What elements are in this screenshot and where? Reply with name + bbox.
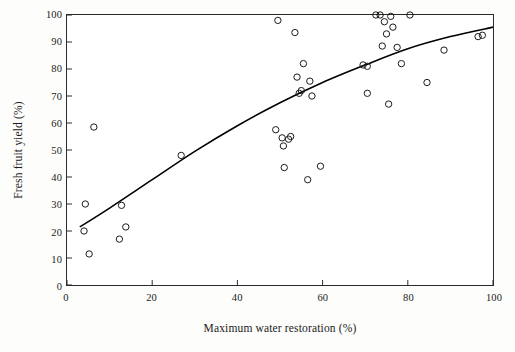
axis-tick-marks [67,15,493,285]
data-point [305,177,311,183]
data-point [281,164,287,170]
data-point [475,33,481,39]
y-axis-label-text: Fresh fruit yield (%) [12,101,24,198]
y-axis-label: Fresh fruit yield (%) [8,14,28,286]
data-point [307,78,313,84]
data-points-group [81,12,486,257]
y-tick-label: 0 [36,281,62,292]
data-point [381,19,387,25]
y-tick-label: 80 [36,63,62,74]
data-point [388,13,394,19]
data-point [385,101,391,107]
y-tick-label: 20 [36,226,62,237]
data-point [317,163,323,169]
data-point [364,90,370,96]
data-point [300,60,306,66]
data-point [91,124,97,130]
x-tick-label: 20 [132,292,172,303]
y-tick-label: 60 [36,117,62,128]
y-tick-label: 40 [36,172,62,183]
x-tick-label: 40 [217,292,257,303]
data-point [275,17,281,23]
y-tick-label: 10 [36,253,62,264]
y-tick-label: 30 [36,199,62,210]
data-point [86,251,92,257]
data-point [309,93,315,99]
data-point [273,127,279,133]
data-point [441,47,447,53]
x-axis-label: Maximum water restoration (%) [66,322,494,334]
data-point [394,44,400,50]
y-tick-label: 100 [36,9,62,20]
data-point [81,228,87,234]
y-tick-label: 50 [36,145,62,156]
x-tick-label: 80 [388,292,428,303]
y-tick-label: 90 [36,36,62,47]
data-point [379,43,385,49]
data-point [383,31,389,37]
data-point [279,135,285,141]
data-point [292,29,298,35]
data-point [407,12,413,18]
data-point [294,74,300,80]
data-point [178,152,184,158]
data-point [82,201,88,207]
x-tick-label: 100 [474,292,514,303]
y-axis-tick-labels: 0102030405060708090100 [30,14,62,286]
x-tick-label: 0 [46,292,86,303]
data-point [390,24,396,30]
plot-area [66,14,494,286]
data-point [377,12,383,18]
x-tick-label: 60 [303,292,343,303]
scatter-chart-figure: Fresh fruit yield (%) 010203040506070809… [0,0,515,352]
data-point [424,79,430,85]
plot-svg [67,15,493,285]
data-point [280,143,286,149]
x-axis-tick-labels: 020406080100 [66,292,494,308]
data-point [116,236,122,242]
data-point [118,202,124,208]
data-point [479,32,485,38]
fit-curve-line [80,27,493,227]
data-point [398,60,404,66]
y-tick-label: 70 [36,90,62,101]
data-point [123,224,129,230]
